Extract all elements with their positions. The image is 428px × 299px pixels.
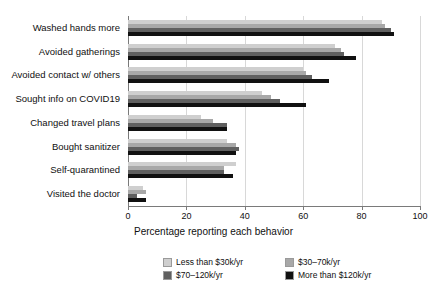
x-tick-label: 40 — [240, 211, 250, 221]
legend-swatch-icon — [163, 258, 172, 267]
bar-group — [128, 111, 420, 135]
legend-label: Less than $30k/yr — [176, 258, 243, 267]
x-tick-label: 100 — [412, 211, 427, 221]
bar — [128, 103, 306, 107]
bar-group — [128, 182, 420, 206]
legend-swatch-icon — [163, 271, 172, 280]
bar — [128, 151, 236, 155]
y-axis-label: Bought sanitizer — [52, 141, 120, 152]
legend-swatch-icon — [285, 271, 294, 280]
bar-group — [128, 16, 420, 40]
legend-label: More than $120k/yr — [298, 271, 371, 280]
plot-area — [128, 16, 420, 206]
y-axis-label: Avoided gatherings — [39, 46, 120, 57]
chart-legend: Less than $30k/yr$30–70k/yr$70–120k/yrMo… — [163, 258, 413, 280]
bar — [128, 174, 233, 178]
legend-item[interactable]: More than $120k/yr — [285, 271, 413, 280]
x-tick-mark — [128, 207, 129, 210]
x-tick-label: 0 — [125, 211, 130, 221]
bar — [128, 127, 227, 131]
x-axis-title: Percentage reporting each behavior — [0, 226, 427, 237]
x-tick-label: 20 — [181, 211, 191, 221]
bar — [128, 198, 146, 202]
bar-group — [128, 159, 420, 183]
x-tick-mark — [362, 207, 363, 210]
y-axis-label: Washed hands more — [33, 22, 120, 33]
bar — [128, 56, 356, 60]
legend-swatch-icon — [285, 258, 294, 267]
bar — [128, 79, 329, 83]
legend-item[interactable]: Less than $30k/yr — [163, 258, 275, 267]
x-axis-ticks: 020406080100 — [128, 207, 421, 223]
y-axis-label: Avoided contact w/ others — [11, 69, 120, 80]
y-axis-label: Visited the doctor — [47, 188, 120, 199]
y-axis-label: Self-quarantined — [50, 164, 120, 175]
legend-label: $30–70k/yr — [298, 258, 340, 267]
x-tick-mark — [303, 207, 304, 210]
gridline — [420, 16, 421, 206]
bar-group — [128, 135, 420, 159]
x-tick-label: 60 — [298, 211, 308, 221]
x-tick-label: 80 — [357, 211, 367, 221]
legend-item[interactable]: $70–120k/yr — [163, 271, 275, 280]
bar-group — [128, 87, 420, 111]
legend-label: $70–120k/yr — [176, 271, 223, 280]
bar — [128, 32, 394, 36]
x-tick-mark — [420, 207, 421, 210]
y-axis-label: Changed travel plans — [30, 117, 120, 128]
bar-group — [128, 64, 420, 88]
x-tick-mark — [245, 207, 246, 210]
legend-item[interactable]: $30–70k/yr — [285, 258, 413, 267]
y-axis-category-labels: Washed hands moreAvoided gatheringsAvoid… — [0, 16, 124, 206]
x-tick-mark — [186, 207, 187, 210]
y-axis-label: Sought info on COVID19 — [15, 93, 120, 104]
bar-group — [128, 40, 420, 64]
